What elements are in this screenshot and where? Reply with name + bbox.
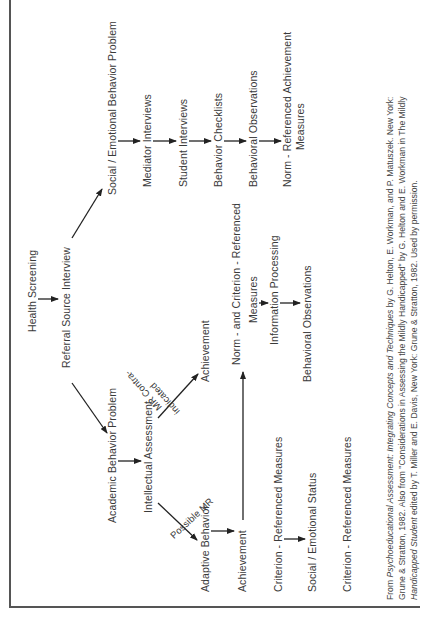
node-achievement-contra: Achievement	[199, 320, 211, 382]
node-academic-behavior-problem: Academic Behavior Problem	[106, 388, 118, 523]
node-intellectual-assessment: Intellectual Assessment	[142, 401, 154, 513]
node-health-screening: Health Screening	[26, 250, 38, 332]
citation-line-1: From Psychoeducational Assessment: Integ…	[384, 5, 396, 600]
node-social-emotional-behavior-problem: Social / Emotional Behavior Problem	[106, 21, 118, 195]
node-information-processing: Information Processing	[268, 235, 280, 345]
node-norm-criterion-referenced: Norm - and Criterion - Referenced	[230, 203, 242, 365]
citation-line-2: Grune & Stratton, 1982. Also from "Consi…	[396, 5, 408, 600]
node-social-emotional-status: Social / Emotional Status	[306, 473, 318, 592]
node-referral-source-interview: Referral Source Interview	[60, 247, 72, 368]
citation-title-1: Psychoeducational Assessment: Integratin…	[385, 310, 395, 578]
node-behavioral-observations-se: Behavioral Observations	[247, 70, 259, 187]
citation-line-3: Handicapped Student edited by T. Miller …	[408, 5, 420, 600]
citation-title-2: Handicapped Student	[409, 517, 419, 600]
node-norm-referenced-achievement: Norm - Referenced Achievement	[281, 32, 293, 187]
node-criterion-referenced-measures-2: Criterion - Referenced Measures	[341, 437, 353, 592]
node-achievement-mr: Achievement	[236, 530, 248, 592]
node-norm-referenced-achievement-measures: Measures	[294, 103, 306, 150]
node-norm-criterion-measures: Measures	[247, 276, 259, 323]
citation-suffix-3: edited by T. Miller and E. Davis, New Yo…	[409, 180, 419, 517]
node-adaptive-behavior: Adaptive Behavior	[199, 505, 211, 592]
node-behavioral-observations-academic: Behavioral Observations	[301, 265, 313, 382]
flowchart-page: Health Screening Referral Source Intervi…	[0, 0, 428, 621]
citation-prefix: From	[385, 578, 395, 600]
node-behavior-checklists: Behavior Checklists	[212, 93, 224, 187]
citation-suffix-1: by G. Helton, E. Workman, and P. Matusze…	[385, 97, 395, 310]
node-mediator-interviews: Mediator Interviews	[141, 94, 153, 187]
node-criterion-referenced-measures-1: Criterion - Referenced Measures	[272, 437, 284, 592]
node-student-interviews: Student Interviews	[177, 99, 189, 187]
